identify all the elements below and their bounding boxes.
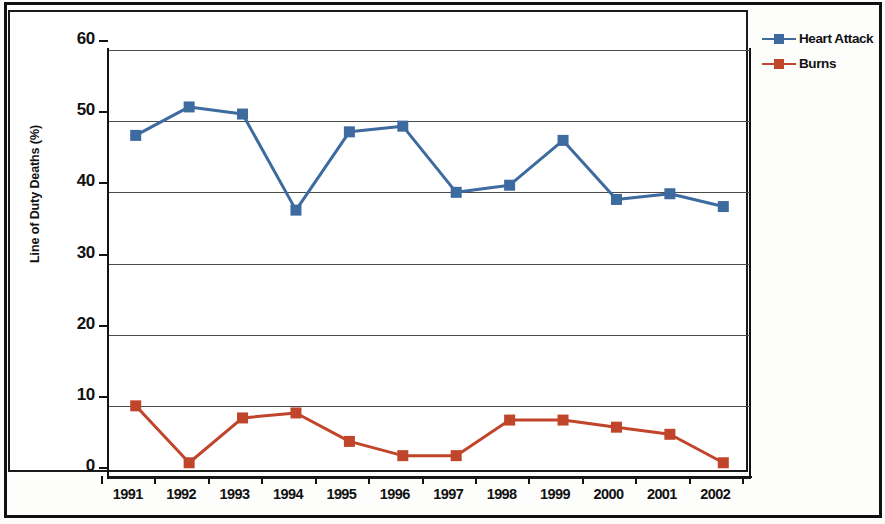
legend-swatch-heart-attack bbox=[762, 32, 796, 46]
gridline-10 bbox=[109, 406, 750, 407]
x-tick-mark-2000 bbox=[582, 476, 584, 484]
legend-marker-heart-attack bbox=[774, 34, 784, 44]
x-tick-label-1996: 1996 bbox=[367, 486, 423, 502]
gridline-50 bbox=[109, 121, 750, 122]
y-tick-mark-50 bbox=[99, 111, 108, 113]
y-tick-label-30: 30 bbox=[55, 243, 95, 263]
x-tick-mark-2001 bbox=[635, 476, 637, 484]
x-tick-mark-1997 bbox=[422, 476, 424, 484]
x-tick-label-1993: 1993 bbox=[207, 486, 263, 502]
legend-item-heart-attack[interactable]: Heart Attack bbox=[762, 26, 882, 51]
x-tick-label-2000: 2000 bbox=[580, 486, 636, 502]
x-tick-mark-1995 bbox=[315, 476, 317, 484]
x-tick-label-1997: 1997 bbox=[420, 486, 476, 502]
y-tick-label-0: 0 bbox=[55, 456, 95, 476]
y-tick-mark-20 bbox=[99, 325, 108, 327]
gridline-20 bbox=[109, 335, 750, 336]
y-axis-title: Line of Duty Deaths (%) bbox=[28, 84, 42, 304]
x-tick-mark-1994 bbox=[261, 476, 263, 484]
y-tick-mark-60 bbox=[99, 40, 108, 42]
x-tick-mark-end bbox=[742, 476, 744, 484]
x-tick-mark-1998 bbox=[475, 476, 477, 484]
y-tick-mark-30 bbox=[99, 254, 108, 256]
legend-marker-burns bbox=[774, 59, 784, 69]
y-tick-label-40: 40 bbox=[55, 171, 95, 191]
x-tick-mark-1991 bbox=[101, 476, 103, 484]
y-tick-label-10: 10 bbox=[55, 385, 95, 405]
x-tick-mark-1999 bbox=[528, 476, 530, 484]
legend-swatch-burns bbox=[762, 57, 796, 71]
chart-legend: Heart Attack Burns bbox=[762, 26, 882, 76]
x-tick-label-1992: 1992 bbox=[153, 486, 209, 502]
y-tick-label-20: 20 bbox=[55, 314, 95, 334]
x-tick-mark-2002 bbox=[689, 476, 691, 484]
y-tick-label-60: 60 bbox=[55, 29, 95, 49]
gridline-0 bbox=[109, 477, 750, 479]
x-tick-label-2002: 2002 bbox=[687, 486, 743, 502]
legend-label-burns: Burns bbox=[799, 56, 836, 71]
x-tick-mark-1992 bbox=[154, 476, 156, 484]
chart-page: Line of Duty Deaths (%) 6050403020100 19… bbox=[0, 0, 885, 524]
x-tick-label-1994: 1994 bbox=[260, 486, 316, 502]
x-tick-mark-1996 bbox=[368, 476, 370, 484]
x-tick-label-2001: 2001 bbox=[634, 486, 690, 502]
x-tick-label-1995: 1995 bbox=[313, 486, 369, 502]
plot-area bbox=[109, 50, 750, 477]
legend-item-burns[interactable]: Burns bbox=[762, 51, 882, 76]
gridline-40 bbox=[109, 192, 750, 193]
y-tick-mark-0 bbox=[99, 467, 108, 469]
legend-label-heart-attack: Heart Attack bbox=[799, 31, 873, 46]
gridline-60 bbox=[109, 50, 750, 51]
gridline-30 bbox=[109, 264, 750, 265]
y-tick-mark-10 bbox=[99, 396, 108, 398]
x-tick-label-1998: 1998 bbox=[474, 486, 530, 502]
chart-panel: Line of Duty Deaths (%) 6050403020100 19… bbox=[8, 10, 748, 472]
y-tick-label-50: 50 bbox=[55, 100, 95, 120]
y-axis-tick-labels: 6050403020100 bbox=[50, 12, 95, 470]
x-tick-mark-1993 bbox=[208, 476, 210, 484]
y-tick-mark-40 bbox=[99, 182, 108, 184]
x-tick-label-1999: 1999 bbox=[527, 486, 583, 502]
x-tick-label-1991: 1991 bbox=[100, 486, 156, 502]
